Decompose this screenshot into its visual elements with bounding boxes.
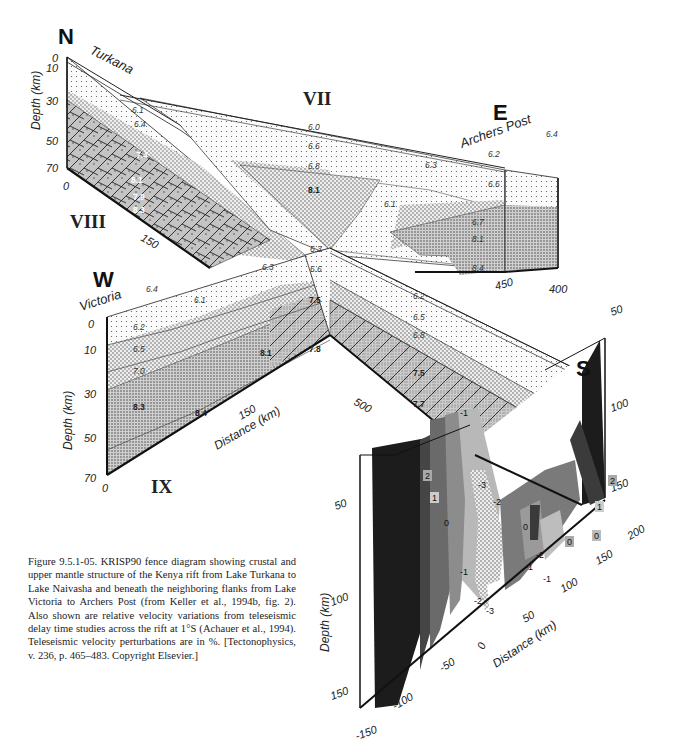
tele-distance-tick: -50	[437, 655, 458, 674]
velocity-label: 6.7	[472, 217, 484, 227]
velocity-label: 6.1	[194, 295, 206, 305]
velocity-label: 8.1	[308, 185, 320, 195]
ix-distance-tick: 0	[102, 482, 109, 494]
tele-depth-tick-right: 100	[609, 396, 631, 414]
velocity-label: 8.1	[472, 234, 484, 244]
velocity-label: 6.6	[310, 264, 322, 274]
velocity-label: 6.3	[310, 244, 322, 254]
tele-distance-tick: 150	[593, 547, 616, 567]
viii-depth-tick: 70	[46, 162, 59, 174]
contour-label: -2	[474, 596, 482, 606]
profile-label-ix: IX	[151, 476, 172, 497]
velocity-label: 7.0	[133, 366, 145, 376]
velocity-label: 8.4	[472, 263, 484, 273]
velocity-label: 7.5	[413, 368, 425, 378]
tele-depth-tick-right: 50	[609, 302, 625, 318]
tele-depth-tick-left: 150	[329, 684, 351, 702]
viii-distance-tick: 0	[63, 180, 70, 192]
profile-label-viii: VIII	[70, 211, 106, 232]
velocity-label: 6.2	[413, 291, 425, 301]
velocity-label: 6.5	[413, 312, 425, 322]
profile-label-vii: VII	[303, 88, 332, 109]
velocity-label: 7.8	[309, 344, 321, 354]
velocity-label: 6.4	[134, 119, 146, 129]
ix-depth-axis-label: Depth (km)	[61, 391, 75, 450]
velocity-label: 6.6	[488, 179, 500, 189]
velocity-label: 6.0	[308, 122, 320, 132]
ix-depth-tick: 70	[84, 472, 97, 484]
velocity-label: 6.1	[132, 105, 144, 115]
velocity-label: 6.4	[146, 284, 158, 294]
contour-label: -1	[525, 562, 533, 572]
tele-depth-tick-left: 50	[333, 496, 349, 512]
tele-distance-tick: 200	[624, 522, 648, 543]
ix-depth-tick: 30	[84, 388, 97, 400]
vii-distance-tick: 400	[549, 283, 568, 295]
ix-depth-tick: 0	[88, 318, 95, 330]
velocity-label: 6.2	[133, 322, 145, 332]
contour-label: -1	[460, 408, 468, 418]
contour-label: -2	[536, 550, 544, 560]
viii-depth-axis-label: Depth (km)	[29, 71, 43, 130]
contour-label: -3	[486, 606, 494, 616]
contour-label: 0	[523, 522, 528, 532]
ix-depth-tick: 50	[84, 432, 97, 444]
vii-distance-tick: 450	[493, 275, 515, 292]
velocity-label: 6.3	[262, 262, 274, 272]
velocity-label: 6.8	[413, 330, 425, 340]
contour-label: -3	[478, 480, 486, 490]
tele-distance-tick: -150	[354, 723, 380, 742]
velocity-label: 6.3	[425, 160, 437, 170]
viii-depth-tick: 30	[46, 95, 59, 107]
contour-label: 0	[567, 537, 572, 547]
contour-label: -2	[493, 497, 501, 507]
velocity-label: 8.3	[133, 402, 145, 412]
velocity-label: 6.8	[308, 161, 320, 171]
tele-distance-tick: 0	[475, 640, 489, 651]
ix-depth-tick: 10	[84, 344, 97, 356]
velocity-label: 8.3	[133, 205, 145, 215]
contour-label: 1	[597, 502, 602, 512]
contour-label: 0	[594, 531, 599, 541]
tele-distance-axis-label: Distance (km)	[490, 617, 559, 670]
contour-label: -1	[460, 567, 468, 577]
velocity-label: 7.7	[413, 399, 425, 409]
velocity-label: 6.1	[384, 199, 396, 209]
contour-label: 2	[610, 476, 615, 486]
velocity-label: 7.5	[309, 295, 321, 305]
contour-label: 1	[432, 493, 437, 503]
velocity-label: 8.1	[131, 175, 143, 185]
velocity-label: 8.1	[260, 348, 272, 358]
contour-label: -1	[543, 574, 551, 584]
viii-depth-tick: 10	[46, 62, 59, 74]
velocity-label: 8.4	[195, 408, 207, 418]
viii-depth-tick: 50	[46, 135, 59, 147]
velocity-label: 7.4	[136, 150, 148, 160]
viii-distance-tick: 150	[139, 231, 162, 251]
direction-north: N	[58, 24, 74, 49]
contour-label: 2	[425, 471, 430, 481]
ix-distance-tick: 500	[352, 395, 375, 415]
figure-caption: Figure 9.5.1-05. KRISP90 fence diagram s…	[28, 555, 296, 662]
velocity-label: 6.2	[488, 149, 500, 159]
tele-distance-tick: 100	[558, 575, 581, 595]
velocity-label: 6.6	[308, 141, 320, 151]
tele-distance-tick: 50	[520, 608, 537, 625]
contour-label: 0	[444, 518, 449, 528]
direction-south: S	[576, 356, 591, 381]
velocity-label: 6.4	[546, 129, 558, 139]
velocity-label: 7.9	[133, 192, 145, 202]
velocity-label: 6.5	[133, 344, 145, 354]
place-turkana: Turkana	[88, 42, 136, 77]
